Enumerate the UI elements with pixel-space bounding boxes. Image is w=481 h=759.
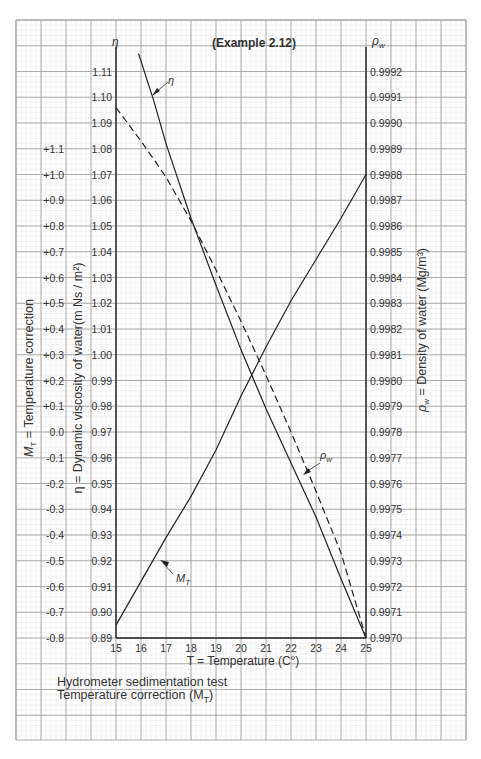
svg-text:0.9989: 0.9989: [370, 143, 402, 155]
svg-text:0.92: 0.92: [92, 555, 113, 567]
svg-text:η: η: [168, 74, 174, 86]
svg-text:1.11: 1.11: [92, 66, 112, 78]
svg-text:0.95: 0.95: [92, 478, 113, 490]
svg-text:0.9973: 0.9973: [370, 555, 402, 567]
rho-axis-symbol: ρw: [371, 34, 386, 50]
svg-text:0.89: 0.89: [92, 632, 113, 644]
svg-text:-0.1: -0.1: [46, 452, 64, 464]
svg-text:1.00: 1.00: [92, 349, 113, 361]
svg-text:0.9985: 0.9985: [370, 246, 402, 258]
svg-text:1.01: 1.01: [92, 323, 113, 335]
svg-text:1.07: 1.07: [92, 169, 113, 181]
svg-text:0.9988: 0.9988: [370, 169, 402, 181]
svg-text:+0.4: +0.4: [43, 323, 64, 335]
svg-text:+0.2: +0.2: [43, 375, 64, 387]
svg-text:24: 24: [335, 642, 347, 654]
svg-text:0.9981: 0.9981: [370, 349, 402, 361]
x-axis-label: T = Temperature (C°): [187, 654, 300, 668]
eta-axis-symbol: η: [112, 35, 119, 49]
svg-text:+1.1: +1.1: [43, 143, 64, 155]
svg-text:+0.6: +0.6: [43, 272, 64, 284]
svg-text:1.09: 1.09: [92, 117, 113, 129]
svg-text:0.9990: 0.9990: [370, 117, 402, 129]
svg-text:0.9978: 0.9978: [370, 426, 402, 438]
svg-text:0.9983: 0.9983: [370, 297, 402, 309]
svg-text:19: 19: [210, 642, 222, 654]
svg-text:16: 16: [135, 642, 147, 654]
svg-text:1.10: 1.10: [92, 91, 113, 103]
svg-text:0.9979: 0.9979: [370, 400, 402, 412]
svg-text:0.9986: 0.9986: [370, 220, 402, 232]
right-axis-label: ρw = Density of water (Mg/m³): [415, 248, 431, 413]
svg-text:0.9970: 0.9970: [370, 632, 402, 644]
svg-text:0.94: 0.94: [92, 503, 113, 515]
svg-text:1.08: 1.08: [92, 143, 113, 155]
svg-text:0.96: 0.96: [92, 452, 113, 464]
svg-text:0.9977: 0.9977: [370, 452, 402, 464]
svg-text:+0.5: +0.5: [43, 297, 64, 309]
svg-text:25: 25: [360, 642, 372, 654]
chart-caption: Hydrometer sedimentation test Temperatur…: [57, 676, 227, 707]
svg-text:0.9984: 0.9984: [370, 272, 402, 284]
svg-text:0.9974: 0.9974: [370, 529, 402, 541]
svg-text:1.04: 1.04: [92, 246, 113, 258]
svg-text:-0.8: -0.8: [46, 632, 64, 644]
rho-annotation: ρw: [303, 449, 333, 475]
caption-line-2: Temperature correction (MT): [57, 689, 227, 707]
svg-text:0.98: 0.98: [92, 400, 113, 412]
svg-text:0.9982: 0.9982: [370, 323, 402, 335]
svg-text:-0.3: -0.3: [46, 503, 64, 515]
svg-text:-0.5: -0.5: [46, 555, 64, 567]
svg-text:-0.7: -0.7: [46, 606, 64, 618]
svg-text:-0.2: -0.2: [46, 478, 64, 490]
svg-text:0.0: 0.0: [49, 426, 64, 438]
svg-text:+1.0: +1.0: [43, 169, 64, 181]
left-outer-axis-label: MT = Temperature correction: [22, 299, 38, 457]
svg-text:1.03: 1.03: [92, 272, 113, 284]
svg-text:20: 20: [235, 642, 247, 654]
svg-text:0.97: 0.97: [92, 426, 113, 438]
svg-text:23: 23: [310, 642, 322, 654]
svg-text:0.99: 0.99: [92, 375, 113, 387]
svg-text:0.90: 0.90: [92, 606, 113, 618]
svg-text:1.02: 1.02: [92, 297, 113, 309]
svg-text:0.9987: 0.9987: [370, 194, 402, 206]
svg-text:+0.1: +0.1: [43, 400, 64, 412]
svg-text:0.9992: 0.9992: [370, 66, 402, 78]
svg-text:0.9991: 0.9991: [370, 91, 402, 103]
svg-text:21: 21: [260, 642, 272, 654]
svg-text:0.91: 0.91: [92, 581, 113, 593]
mt-annotation: MT: [160, 560, 191, 587]
svg-text:1.06: 1.06: [92, 194, 113, 206]
svg-text:15: 15: [110, 642, 122, 654]
left-inner-axis-label: η = Dynamic viscosity of water(m Ns / m²…: [71, 263, 85, 494]
svg-text:0.9971: 0.9971: [370, 606, 402, 618]
svg-text:MT: MT: [176, 572, 191, 587]
svg-text:0.9972: 0.9972: [370, 581, 402, 593]
svg-text:+0.8: +0.8: [43, 220, 64, 232]
svg-text:-0.6: -0.6: [46, 581, 64, 593]
svg-text:+0.3: +0.3: [43, 349, 64, 361]
svg-text:0.9980: 0.9980: [370, 375, 402, 387]
svg-text:-0.4: -0.4: [46, 529, 64, 541]
svg-text:18: 18: [185, 642, 197, 654]
svg-text:+0.9: +0.9: [43, 194, 64, 206]
svg-text:17: 17: [160, 642, 172, 654]
chart-canvas: 1.111.101.091.081.071.061.051.041.031.02…: [0, 0, 481, 759]
svg-text:+0.7: +0.7: [43, 246, 64, 258]
svg-text:0.9976: 0.9976: [370, 478, 402, 490]
svg-text:1.05: 1.05: [92, 220, 113, 232]
chart-title: (Example 2.12): [212, 36, 296, 50]
svg-text:22: 22: [285, 642, 297, 654]
svg-text:0.9975: 0.9975: [370, 503, 402, 515]
svg-text:0.93: 0.93: [92, 529, 113, 541]
